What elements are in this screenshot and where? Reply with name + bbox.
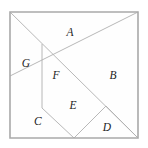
tangram-figure: A B C D E F G (0, 0, 148, 148)
piece-label-c: C (34, 115, 42, 127)
tangram-diagram: A B C D E F G (0, 0, 148, 148)
piece-label-e: E (68, 99, 76, 111)
piece-label-d: D (102, 121, 112, 133)
piece-label-b: B (109, 69, 116, 81)
piece-label-f: F (51, 69, 60, 81)
piece-label-a: A (65, 26, 74, 38)
piece-label-g: G (22, 57, 31, 69)
